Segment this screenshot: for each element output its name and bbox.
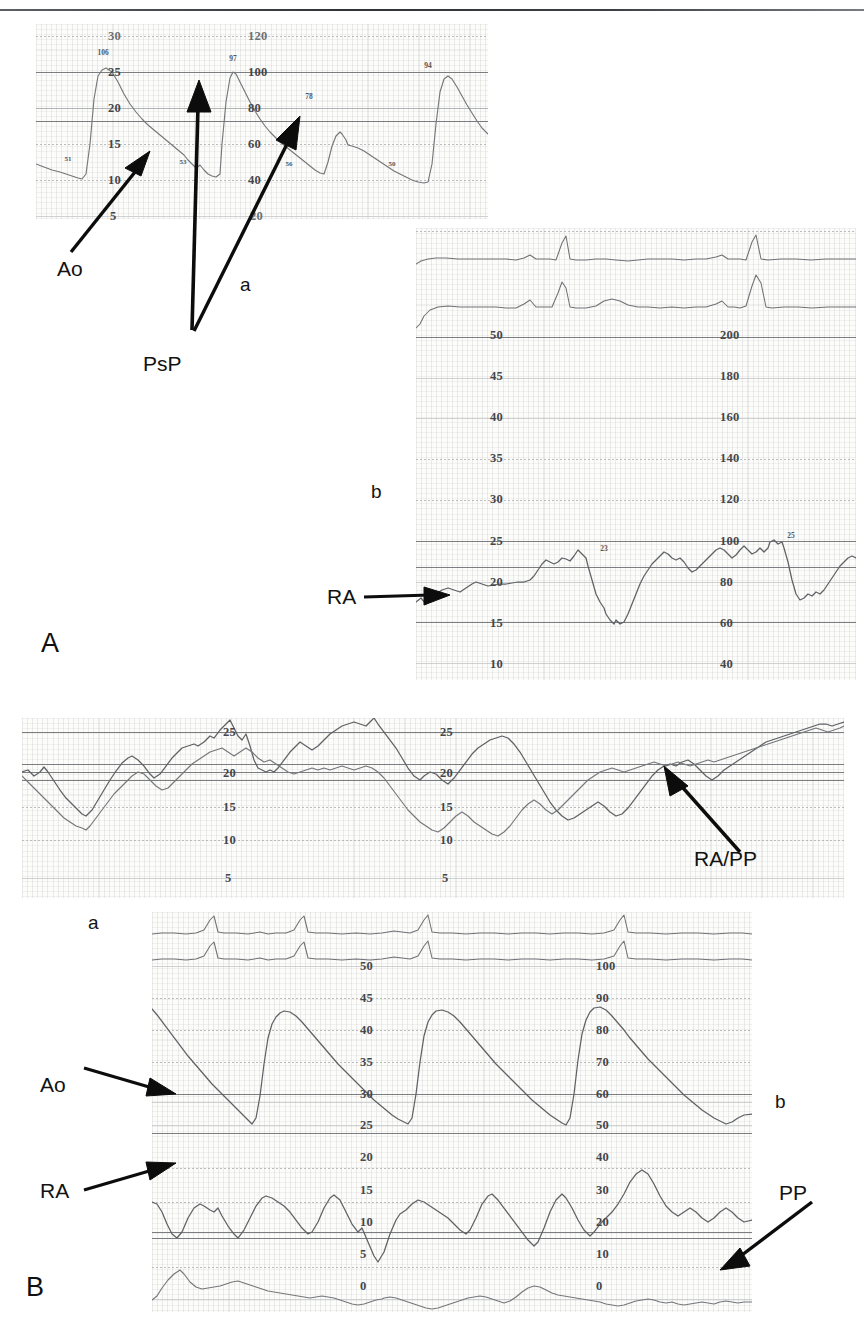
ra-waveform — [416, 228, 856, 680]
tracing-b-sublabel: b — [371, 482, 382, 501]
axis-tick: 140 — [720, 452, 740, 465]
axis-tick: 20 — [108, 102, 121, 115]
axis-tick: 10 — [223, 834, 236, 847]
ra-label: RA — [327, 586, 356, 607]
axis-tick: 25 — [490, 535, 503, 548]
peak-value-label: 94 — [424, 61, 432, 70]
page-header-cut-text — [60, 0, 360, 6]
trough-value-label: 50 — [389, 160, 396, 168]
axis-tick: 100 — [596, 960, 616, 973]
psp-label: PsP — [143, 353, 182, 374]
axis-tick: 0 — [360, 1280, 367, 1293]
axis-tick: 45 — [490, 370, 503, 383]
ra-annotation-arrow-b — [84, 1160, 184, 1200]
ao-label-b: Ao — [40, 1074, 66, 1095]
panel-b-letter: B — [26, 1274, 44, 1301]
peak-value-label: 25 — [787, 531, 795, 540]
axis-tick: 25 — [360, 1119, 373, 1132]
axis-tick: 20 — [596, 1216, 609, 1229]
axis-tick: 70 — [596, 1056, 609, 1069]
axis-tick: 5 — [360, 1248, 367, 1261]
axis-tick: 80 — [596, 1024, 609, 1037]
ra-label-b: RA — [40, 1180, 69, 1201]
panel-a-tracing-b-strip — [416, 228, 856, 680]
axis-tick: 160 — [720, 411, 740, 424]
axis-tick: 35 — [490, 452, 503, 465]
ao-label: Ao — [57, 258, 83, 279]
axis-tick: 120 — [248, 30, 268, 43]
axis-tick: 10 — [360, 1216, 373, 1229]
axis-tick: 50 — [360, 960, 373, 973]
axis-tick: 30 — [490, 493, 503, 506]
ra-annotation-arrow — [364, 584, 454, 612]
axis-tick: 10 — [596, 1248, 609, 1261]
tracing-a-sublabel: a — [240, 275, 251, 294]
panel-b-tracing-b-strip — [152, 912, 752, 1312]
peak-value-label: 78 — [305, 92, 313, 101]
panel-b-tracing-a-sublabel: a — [88, 913, 99, 932]
axis-tick: 90 — [596, 992, 609, 1005]
axis-tick: 35 — [360, 1056, 373, 1069]
axis-tick: 120 — [720, 493, 740, 506]
axis-tick: 25 — [223, 726, 236, 739]
axis-tick: 15 — [440, 801, 453, 814]
axis-tick: 25 — [108, 66, 121, 79]
axis-tick: 0 — [596, 1280, 603, 1293]
pp-annotation-arrow — [700, 1196, 820, 1276]
peak-value-label: 97 — [229, 54, 237, 63]
axis-tick: 60 — [596, 1088, 609, 1101]
axis-tick: 60 — [720, 617, 733, 630]
axis-tick: 40 — [490, 411, 503, 424]
axis-tick: 180 — [720, 370, 740, 383]
psp-annotation-arrow-2 — [150, 110, 320, 335]
axis-tick: 20 — [490, 576, 503, 589]
axis-tick: 5 — [442, 872, 449, 885]
ra-pp-label: RA/PP — [694, 848, 757, 869]
axis-tick: 5 — [225, 872, 232, 885]
axis-tick: 15 — [490, 617, 503, 630]
ra-pp-waveform-b — [152, 912, 752, 1312]
axis-tick: 40 — [720, 658, 733, 671]
panel-b-tracing-b-sublabel: b — [775, 1092, 786, 1111]
axis-tick: 20 — [223, 767, 236, 780]
axis-tick: 10 — [490, 658, 503, 671]
axis-tick: 10 — [440, 834, 453, 847]
ra-pp-annotation-arrow — [652, 760, 762, 855]
ao-annotation-arrow-b — [84, 1062, 184, 1102]
axis-tick: 15 — [360, 1184, 373, 1197]
panel-a-letter: A — [41, 630, 59, 657]
axis-tick: 40 — [596, 1151, 609, 1164]
axis-tick: 200 — [720, 329, 740, 342]
axis-tick: 15 — [223, 801, 236, 814]
axis-tick: 45 — [360, 992, 373, 1005]
header-divider — [0, 9, 864, 11]
axis-tick: 80 — [720, 576, 733, 589]
axis-tick: 20 — [440, 767, 453, 780]
axis-tick: 100 — [720, 535, 740, 548]
peak-value-label: 23 — [600, 544, 608, 553]
axis-tick: 30 — [596, 1184, 609, 1197]
axis-tick: 25 — [440, 726, 453, 739]
axis-tick: 40 — [360, 1024, 373, 1037]
axis-tick: 20 — [360, 1151, 373, 1164]
axis-tick: 30 — [108, 30, 121, 43]
axis-tick: 30 — [360, 1088, 373, 1101]
axis-tick: 50 — [490, 329, 503, 342]
axis-tick: 50 — [596, 1119, 609, 1132]
peak-value-label: 106 — [97, 48, 108, 57]
